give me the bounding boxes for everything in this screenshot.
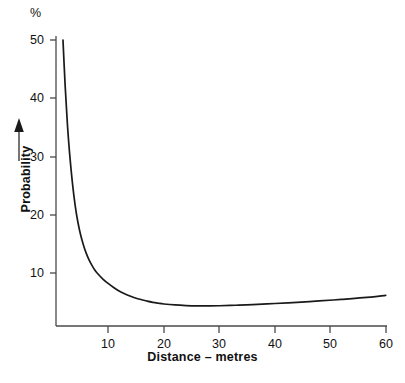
data-series-probability — [63, 40, 386, 306]
y-axis-title: Probability — [19, 146, 33, 213]
y-tick-marks — [50, 40, 56, 273]
y-axis-title-wrapper: Probability — [16, 124, 34, 234]
y-tick-label-40: 40 — [8, 91, 44, 105]
y-tick-label-10: 10 — [8, 266, 44, 280]
y-tick-label-50: 50 — [8, 33, 44, 47]
y-axis-unit-label: % — [30, 6, 41, 20]
x-tick-label-60: 60 — [379, 337, 393, 351]
x-tick-label-30: 30 — [212, 337, 226, 351]
chart-figure: % 50 40 30 20 10 10 20 30 40 50 60 Dista… — [0, 0, 405, 383]
x-tick-label-50: 50 — [323, 337, 337, 351]
x-tick-label-10: 10 — [101, 337, 115, 351]
x-axis-title: Distance – metres — [0, 350, 405, 364]
plot-area — [0, 0, 405, 383]
x-tick-label-40: 40 — [268, 337, 282, 351]
x-tick-marks — [108, 326, 386, 333]
x-tick-label-20: 20 — [157, 337, 171, 351]
